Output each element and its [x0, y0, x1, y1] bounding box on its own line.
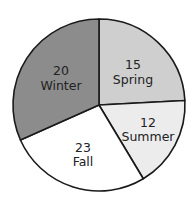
slice-label-summer: Summer	[121, 129, 175, 144]
slice-value-summer: 12	[140, 115, 156, 130]
slice-value-spring: 15	[125, 57, 141, 72]
slice-label-spring: Spring	[113, 72, 153, 87]
slice-value-fall: 23	[75, 140, 91, 155]
slice-label-fall: Fall	[73, 154, 94, 169]
pie-chart: 15Spring12Summer23Fall20Winter	[0, 0, 192, 205]
pie-slice-spring	[99, 19, 185, 105]
pie-chart-svg: 15Spring12Summer23Fall20Winter	[0, 0, 192, 205]
slice-label-winter: Winter	[40, 78, 82, 93]
slice-value-winter: 20	[53, 63, 69, 78]
